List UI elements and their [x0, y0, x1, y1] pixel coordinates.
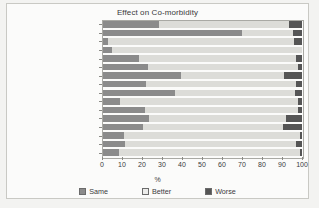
bar-row: Tremors: [102, 20, 302, 29]
x-axis-tick-label: 40: [172, 161, 192, 168]
bar-segment-worse: [298, 64, 302, 71]
bar-segment-worse: [284, 72, 302, 79]
x-axis-tick-label: 80: [252, 161, 272, 168]
bar-segment-same: [102, 21, 159, 28]
bar-segment-worse: [296, 81, 302, 88]
legend-swatch-same-icon: [79, 188, 86, 195]
bar-row: Diabetes: [102, 46, 302, 55]
x-axis-tick: [262, 157, 263, 160]
bar-segment-same: [102, 132, 124, 139]
x-axis-tick: [162, 157, 163, 160]
bar-segment-better: [175, 90, 295, 97]
bar-segment-same: [102, 115, 149, 122]
chart-figure: Effect on Co-morbidity TremorsInfertilit…: [6, 3, 309, 199]
x-axis-tick: [302, 157, 303, 160]
bar-segment-better: [143, 124, 283, 131]
bar-segment-same: [102, 90, 175, 97]
legend-label-worse: Worse: [215, 187, 236, 196]
bar-segment-worse: [289, 21, 302, 28]
bar-row: Depression: [102, 123, 302, 132]
y-axis-tick: [99, 101, 102, 102]
bar-segment-same: [102, 30, 242, 37]
x-axis-tick-label: 10: [112, 161, 132, 168]
x-axis-title: %: [7, 176, 308, 183]
bar-segment-worse: [296, 55, 302, 62]
legend-swatch-worse-icon: [205, 188, 212, 195]
bar-row: Hypertension: [102, 80, 302, 89]
bar-segment-worse: [300, 149, 302, 156]
legend-label-better: Better: [152, 187, 171, 196]
y-axis-tick: [99, 118, 102, 119]
x-axis-tick: [202, 157, 203, 160]
legend-item-same: Same: [79, 187, 108, 196]
x-axis-tick: [122, 157, 123, 160]
bar-segment-worse: [293, 30, 302, 37]
y-axis-tick: [99, 76, 102, 77]
bar-row: Poor exercise tolerance: [102, 140, 302, 149]
bar-segment-same: [102, 64, 148, 71]
bar-segment-better: [139, 55, 296, 62]
x-axis-tick-label: 90: [272, 161, 292, 168]
bar-segment-worse: [286, 115, 302, 122]
x-axis-tick-label: 30: [152, 161, 172, 168]
x-axis-tick: [102, 157, 103, 160]
y-axis-tick: [99, 144, 102, 145]
bar-row: Asthma: [102, 63, 302, 72]
x-axis-tick-label: 100: [292, 161, 312, 168]
bar-row: Heartburn: [102, 97, 302, 106]
x-axis-tick-label: 0: [92, 161, 112, 168]
y-axis-tick: [99, 67, 102, 68]
bar-segment-better: [242, 30, 293, 37]
bar-row: Arthritis: [102, 114, 302, 123]
bar-segment-worse: [300, 132, 302, 139]
legend-item-worse: Worse: [205, 187, 236, 196]
bar-segment-better: [148, 64, 298, 71]
bar-row: Poor sleep/snoring: [102, 131, 302, 140]
y-axis-tick: [99, 50, 102, 51]
bar-segment-same: [102, 72, 181, 79]
legend-label-same: Same: [89, 187, 108, 196]
bar-segment-better: [181, 72, 284, 79]
x-axis-tick: [142, 157, 143, 160]
bar-segment-better: [119, 149, 300, 156]
bar-segment-same: [102, 149, 119, 156]
y-axis-tick: [99, 110, 102, 111]
bar-segment-better: [149, 115, 286, 122]
bar-segment-better: [108, 38, 294, 45]
bar-row: Hirsutism: [102, 54, 302, 63]
bar-segment-better: [112, 47, 302, 54]
bar-segment-better: [120, 98, 298, 105]
legend-item-better: Better: [142, 187, 171, 196]
y-axis-tick: [99, 136, 102, 137]
x-axis-tick: [222, 157, 223, 160]
y-axis-tick: [99, 84, 102, 85]
bar-row: Infertility: [102, 29, 302, 38]
bar-segment-better: [124, 132, 300, 139]
bar-segment-same: [102, 47, 112, 54]
y-axis-tick: [99, 153, 102, 154]
bar-segment-better: [159, 21, 289, 28]
y-axis-tick: [99, 93, 102, 94]
bar-segment-better: [125, 141, 296, 148]
bar-segment-worse: [296, 141, 302, 148]
bar-segment-worse: [295, 90, 302, 97]
bar-segment-worse: [298, 107, 302, 114]
x-axis-tick-label: 50: [192, 161, 212, 168]
x-axis-tick: [242, 157, 243, 160]
y-axis-tick: [99, 24, 102, 25]
bar-row: Angina: [102, 37, 302, 46]
bar-segment-better: [146, 81, 296, 88]
bar-segment-same: [102, 98, 120, 105]
y-axis-tick: [99, 59, 102, 60]
bar-row: Headache: [102, 89, 302, 98]
y-axis-tick: [99, 41, 102, 42]
x-axis-tick-label: 60: [212, 161, 232, 168]
bar-row: Incontinece: [102, 106, 302, 115]
bar-segment-worse: [298, 98, 302, 105]
bar-row: Irreg periods: [102, 71, 302, 80]
bar-segment-worse: [294, 38, 302, 45]
bar-segment-same: [102, 141, 125, 148]
y-axis-tick: [99, 33, 102, 34]
bar-segment-better: [145, 107, 298, 114]
chart-legend: Same Better Worse: [7, 187, 308, 196]
